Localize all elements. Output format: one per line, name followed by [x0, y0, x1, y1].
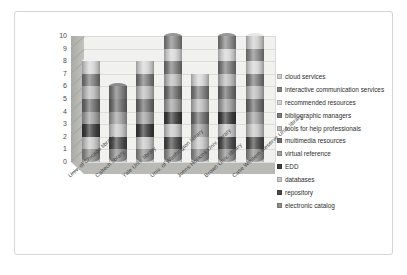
- bar-segment: [136, 86, 154, 99]
- bar-segment: [136, 99, 154, 112]
- legend-label: electronic catalog: [285, 202, 335, 209]
- legend-swatch-icon: [277, 177, 282, 182]
- bar-segment: [82, 124, 100, 137]
- legend-label: databases: [285, 176, 315, 183]
- bar-segment: [191, 112, 209, 125]
- bar-segment: [246, 49, 264, 62]
- y-axis-tick: 7: [41, 70, 67, 78]
- y-axis: 012345678910: [41, 30, 69, 180]
- legend-swatch-icon: [277, 100, 282, 105]
- bar-segment: [82, 74, 100, 87]
- legend-item[interactable]: databases: [277, 173, 407, 186]
- bar-segment: [164, 112, 182, 125]
- legend-item[interactable]: interactive communication services: [277, 83, 407, 96]
- bar-stack[interactable]: [218, 36, 236, 162]
- bar-segment: [164, 99, 182, 112]
- legend-label: recommended resources: [285, 99, 356, 106]
- legend-item[interactable]: bibliographic managers: [277, 109, 407, 122]
- legend-label: interactive communication services: [285, 86, 384, 93]
- legend-item[interactable]: cloud services: [277, 70, 407, 83]
- bar-stack[interactable]: [164, 36, 182, 162]
- legend-item[interactable]: repository: [277, 186, 407, 199]
- bar-segment: [82, 61, 100, 74]
- legend-swatch-icon: [277, 74, 282, 79]
- y-axis-tick: 0: [41, 158, 67, 166]
- legend-swatch-icon: [277, 113, 282, 118]
- bar-segment: [164, 49, 182, 62]
- bar-segment: [246, 99, 264, 112]
- bar-segment: [164, 36, 182, 49]
- bar-segment: [218, 74, 236, 87]
- x-axis-labels: Univ. of Chicago libraryCaltech libraryY…: [15, 172, 285, 252]
- bar-segment: [246, 61, 264, 74]
- chart-legend: cloud servicesinteractive communication …: [277, 70, 407, 212]
- bar-segment: [191, 74, 209, 87]
- legend-item[interactable]: electronic catalog: [277, 199, 407, 212]
- bar-segment: [82, 112, 100, 125]
- bar-segment: [164, 124, 182, 137]
- legend-swatch-icon: [277, 126, 282, 131]
- legend-swatch-icon: [277, 151, 282, 156]
- bar-segment: [82, 99, 100, 112]
- legend-item[interactable]: multimedia resources: [277, 134, 407, 147]
- bar-segment: [109, 99, 127, 112]
- bar-segment: [218, 86, 236, 99]
- bar-segment: [246, 86, 264, 99]
- bar-segment: [136, 124, 154, 137]
- bar-segment: [246, 36, 264, 49]
- y-axis-tick: 2: [41, 133, 67, 141]
- bar-segment: [109, 112, 127, 125]
- bar-segment: [136, 112, 154, 125]
- y-axis-tick: 8: [41, 57, 67, 65]
- legend-label: bibliographic managers: [285, 112, 351, 119]
- bar-segment: [246, 124, 264, 137]
- y-axis-tick: 1: [41, 145, 67, 153]
- legend-label: tools for help professionals: [285, 125, 361, 132]
- bar-stack[interactable]: [246, 36, 264, 162]
- y-axis-tick: 9: [41, 45, 67, 53]
- legend-swatch-icon: [277, 190, 282, 195]
- legend-label: EDD: [285, 163, 299, 170]
- y-axis-tick: 3: [41, 120, 67, 128]
- y-axis-tick: 10: [41, 32, 67, 40]
- bar-segment: [218, 49, 236, 62]
- chart-figure: 012345678910 Univ. of Chicago libraryCal…: [0, 0, 407, 275]
- bar-segment: [191, 99, 209, 112]
- legend-item[interactable]: recommended resources: [277, 96, 407, 109]
- legend-label: multimedia resources: [285, 137, 346, 144]
- legend-label: repository: [285, 189, 313, 196]
- y-axis-tick: 6: [41, 82, 67, 90]
- bar-segment: [136, 74, 154, 87]
- bar-segment: [164, 61, 182, 74]
- legend-item[interactable]: virtual reference: [277, 147, 407, 160]
- bar-segment: [109, 86, 127, 99]
- legend-item[interactable]: EDD: [277, 160, 407, 173]
- bar-segment: [164, 74, 182, 87]
- legend-item[interactable]: tools for help professionals: [277, 122, 407, 135]
- bar-segment: [218, 112, 236, 125]
- legend-swatch-icon: [277, 138, 282, 143]
- bar-segment: [218, 36, 236, 49]
- bar-segment: [246, 74, 264, 87]
- legend-swatch-icon: [277, 87, 282, 92]
- bar-segment: [218, 61, 236, 74]
- y-axis-tick: 5: [41, 95, 67, 103]
- legend-label: cloud services: [285, 73, 326, 80]
- bar-segment: [246, 112, 264, 125]
- legend-swatch-icon: [277, 203, 282, 208]
- chart-frame: 012345678910 Univ. of Chicago libraryCal…: [14, 11, 393, 255]
- bar-segment: [136, 61, 154, 74]
- y-axis-tick: 4: [41, 108, 67, 116]
- legend-label: virtual reference: [285, 150, 331, 157]
- legend-swatch-icon: [277, 164, 282, 169]
- bar-segment: [82, 86, 100, 99]
- bar-segment: [218, 99, 236, 112]
- bar-segment: [164, 86, 182, 99]
- bar-segment: [191, 86, 209, 99]
